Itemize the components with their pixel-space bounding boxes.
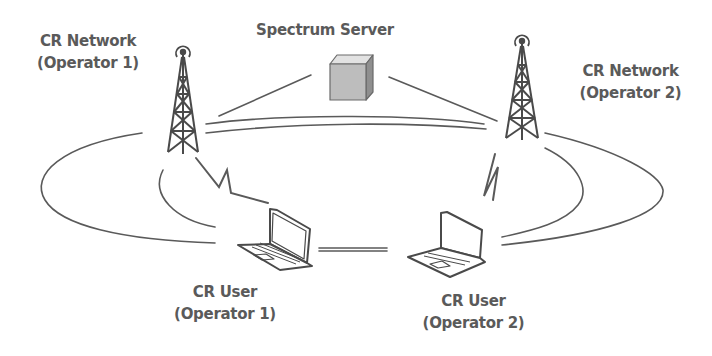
server-cube-icon: [330, 55, 373, 100]
server-label: Spectrum Server: [240, 19, 410, 41]
tower-backhaul-link: [206, 116, 486, 133]
operator2-coverage: [502, 133, 663, 245]
wireless-link-operator1: [196, 158, 268, 203]
network1-label-line1: CR Network: [28, 30, 148, 52]
server-label-text: Spectrum Server: [240, 19, 410, 41]
operator1-coverage: [41, 133, 215, 243]
network2-label: CR Network (Operator 2): [568, 60, 693, 104]
user2-label-line1: CR User: [411, 290, 536, 312]
user1-label: CR User (Operator 1): [165, 281, 285, 325]
cell-tower-icon: [168, 46, 198, 154]
user1-label-line2: (Operator 1): [165, 303, 285, 325]
user2-label-line2: (Operator 2): [411, 312, 536, 334]
user1-label-line1: CR User: [165, 281, 285, 303]
laptop-icon: [238, 209, 312, 270]
wireless-link-operator2: [484, 154, 498, 200]
network1-label: CR Network (Operator 1): [28, 30, 148, 74]
network2-label-line2: (Operator 2): [568, 82, 693, 104]
cell-tower-icon: [506, 35, 538, 140]
user-link: [319, 248, 387, 251]
network1-label-line2: (Operator 1): [28, 52, 148, 74]
cr-network-diagram: CR Network (Operator 1) Spectrum Server …: [0, 0, 712, 356]
user2-label: CR User (Operator 2): [411, 290, 536, 334]
network2-label-line1: CR Network: [568, 60, 693, 82]
laptop-icon: [408, 212, 485, 277]
